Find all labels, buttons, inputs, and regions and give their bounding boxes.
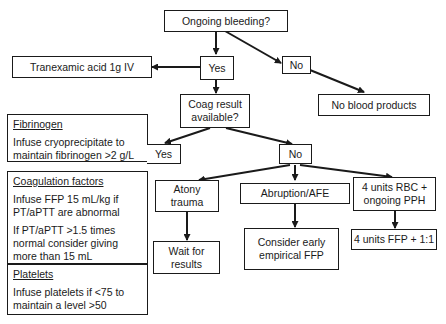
no-top-label: No [290, 59, 303, 72]
consider-early-ffp-node: Consider early empirical FFP [244, 228, 339, 270]
wait-for-results-line1: Wait for [169, 245, 205, 258]
atony-trauma-line1: Atony [174, 183, 201, 196]
consider-early-ffp-line2: empirical FFP [259, 249, 324, 262]
coag-result-node: Coag result available? [180, 94, 250, 128]
no-coag-node: No [279, 144, 312, 164]
yes-top-node: Yes [200, 56, 234, 80]
ongoing-bleeding-label: Ongoing bleeding? [182, 15, 270, 28]
abruption-afe-label: Abruption/AFE [261, 187, 329, 200]
coagulation-factors-text2: If PT/aPTT >1.5 times normal consider gi… [13, 224, 142, 263]
ongoing-bleeding-node: Ongoing bleeding? [164, 10, 288, 32]
wait-for-results-node: Wait for results [153, 241, 220, 274]
platelets-panel: Platelets Infuse platelets if <75 to mai… [7, 264, 148, 315]
fibrinogen-heading: Fibrinogen [13, 118, 142, 131]
atony-trauma-line2: trauma [171, 196, 204, 209]
tranexamic-acid-node: Tranexamic acid 1g IV [12, 56, 152, 78]
coagulation-factors-text1: Infuse FFP 15 mL/kg if PT/aPTT are abnor… [13, 193, 142, 219]
yes-coag-node: Yes [147, 144, 181, 164]
no-blood-products-node: No blood products [318, 94, 430, 116]
atony-trauma-node: Atony trauma [155, 180, 219, 212]
abruption-afe-node: Abruption/AFE [240, 183, 350, 204]
coagulation-factors-panel: Coagulation factors Infuse FFP 15 mL/kg … [7, 171, 148, 264]
platelets-heading: Platelets [13, 268, 142, 281]
consider-early-ffp-line1: Consider early [258, 236, 326, 249]
no-coag-label: No [289, 148, 302, 161]
wait-for-results-line2: results [171, 258, 202, 271]
platelets-text: Infuse platelets if <75 to maintain a le… [13, 286, 142, 312]
fibrinogen-panel: Fibrinogen Infuse cryoprecipitate to mai… [7, 114, 148, 162]
coag-result-line1: Coag result [188, 98, 242, 111]
ffp-1-1-node: 4 units FFP + 1:1 [351, 229, 437, 250]
no-blood-products-label: No blood products [331, 99, 416, 112]
ffp-1-1-label: 4 units FFP + 1:1 [354, 233, 434, 246]
no-top-node: No [282, 56, 311, 74]
yes-top-label: Yes [208, 62, 225, 75]
coagulation-factors-heading: Coagulation factors [13, 175, 142, 188]
rbc-ongoing-pph-line2: ongoing PPH [364, 194, 426, 207]
fibrinogen-text: Infuse cryoprecipitate to maintain fibri… [13, 136, 142, 162]
coag-result-line2: available? [191, 111, 238, 124]
tranexamic-acid-label: Tranexamic acid 1g IV [30, 61, 134, 74]
rbc-ongoing-pph-node: 4 units RBC + ongoing PPH [353, 177, 436, 211]
rbc-ongoing-pph-line1: 4 units RBC + [362, 181, 427, 194]
yes-coag-label: Yes [155, 148, 172, 161]
